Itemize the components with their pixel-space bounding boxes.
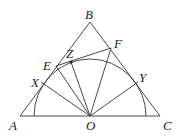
segment-oe [56,66,90,116]
geometry-diagram: A B C O E F X Y Z [0,0,180,136]
label-f: F [113,36,123,51]
segment-oy [90,82,138,116]
segment-oz [71,62,90,116]
label-o: O [86,118,96,133]
radii-from-o [41,48,138,116]
segment-bc [90,22,160,116]
segment-of [90,48,111,116]
label-x: X [30,75,40,90]
label-y: Y [139,70,148,85]
label-c: C [163,118,172,133]
label-b: B [85,7,93,22]
label-a: A [8,118,17,133]
triangle-abc [20,22,160,116]
label-z: Z [66,46,74,61]
segment-ab [20,22,90,116]
segment-ox [41,82,90,116]
label-e: E [42,58,51,73]
